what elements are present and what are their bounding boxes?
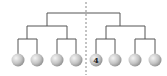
branch-4	[135, 39, 155, 54]
leaf-ball-2	[31, 54, 44, 67]
left-branch	[27, 26, 67, 39]
leaf-ball-7	[129, 54, 142, 67]
branch-3	[96, 39, 115, 54]
right-branch	[106, 26, 145, 39]
root-branch	[47, 13, 120, 26]
branch-2	[57, 39, 76, 54]
leaf-ball-6	[109, 54, 122, 67]
branch-1	[18, 39, 37, 54]
leaf-ball-8	[149, 54, 162, 67]
tree-diagram	[0, 0, 167, 76]
leaf-ball-3	[51, 54, 64, 67]
leaf-ball-4	[70, 54, 83, 67]
leaf-ball-1	[12, 54, 25, 67]
leaf-label-5: 4	[90, 55, 102, 65]
